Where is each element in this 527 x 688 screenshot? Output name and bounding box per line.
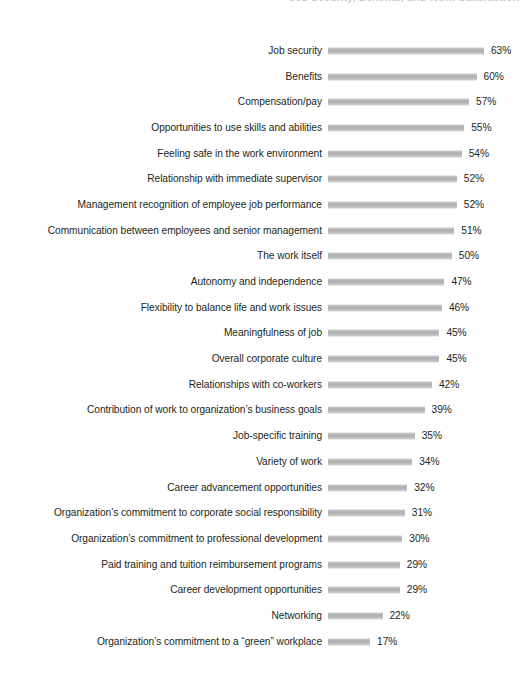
bar-track: 35% bbox=[328, 423, 494, 449]
bar-value-label: 30% bbox=[409, 533, 429, 545]
bar-track: 17% bbox=[328, 629, 494, 655]
bar-track: 32% bbox=[328, 475, 494, 501]
bar-category-label: Career advancement opportunities bbox=[0, 482, 328, 494]
bar-fill bbox=[328, 124, 464, 131]
bar-category-label: Relationships with co-workers bbox=[0, 379, 328, 391]
bar-category-label: Autonomy and independence bbox=[0, 276, 328, 288]
bar-track: 60% bbox=[328, 64, 494, 90]
bar-value-label: 52% bbox=[464, 173, 484, 185]
bar-value-label: 29% bbox=[407, 584, 427, 596]
bar-row: Relationship with immediate supervisor52… bbox=[0, 166, 527, 192]
bar-category-label: Variety of work bbox=[0, 456, 328, 468]
bar-fill bbox=[328, 330, 439, 337]
bar-category-label: Career development opportunities bbox=[0, 584, 328, 596]
bar-category-label: Feeling safe in the work environment bbox=[0, 148, 328, 160]
bar-track: 45% bbox=[328, 321, 494, 347]
bar-row: Organization’s commitment to corporate s… bbox=[0, 500, 527, 526]
bar-track: 30% bbox=[328, 526, 494, 552]
bar-track: 51% bbox=[328, 218, 494, 244]
bar-value-label: 45% bbox=[446, 327, 466, 339]
bar-fill bbox=[328, 99, 469, 106]
bar-fill bbox=[328, 612, 383, 619]
bar-value-label: 31% bbox=[412, 507, 432, 519]
bar-value-label: 45% bbox=[446, 353, 466, 365]
bar-fill bbox=[328, 176, 457, 183]
bar-category-label: Job security bbox=[0, 45, 328, 57]
bar-row: Career advancement opportunities32% bbox=[0, 475, 527, 501]
bar-track: 47% bbox=[328, 269, 494, 295]
bar-track: 46% bbox=[328, 295, 494, 321]
bar-value-label: 63% bbox=[491, 45, 511, 57]
bar-row: Networking22% bbox=[0, 603, 527, 629]
bar-track: 55% bbox=[328, 115, 494, 141]
bar-value-label: 52% bbox=[464, 199, 484, 211]
bar-fill bbox=[328, 561, 400, 568]
bar-fill bbox=[328, 484, 407, 491]
bar-value-label: 39% bbox=[432, 404, 452, 416]
bar-row: Benefits60% bbox=[0, 64, 527, 90]
bar-track: 45% bbox=[328, 346, 494, 372]
bar-track: 39% bbox=[328, 398, 494, 424]
bar-fill bbox=[328, 73, 477, 80]
bar-category-label: Organization’s commitment to professiona… bbox=[0, 533, 328, 545]
bar-fill bbox=[328, 47, 484, 54]
bar-value-label: 32% bbox=[414, 482, 434, 494]
bar-fill bbox=[328, 510, 405, 517]
bar-fill bbox=[328, 253, 452, 260]
bar-category-label: Management recognition of employee job p… bbox=[0, 199, 328, 211]
bar-category-label: The work itself bbox=[0, 250, 328, 262]
bar-track: 29% bbox=[328, 552, 494, 578]
bar-row: Paid training and tuition reimbursement … bbox=[0, 552, 527, 578]
bar-row: Management recognition of employee job p… bbox=[0, 192, 527, 218]
bar-category-label: Flexibility to balance life and work iss… bbox=[0, 302, 328, 314]
bar-track: 22% bbox=[328, 603, 494, 629]
bar-category-label: Paid training and tuition reimbursement … bbox=[0, 559, 328, 571]
bar-category-label: Communication between employees and seni… bbox=[0, 225, 328, 237]
bar-track: 29% bbox=[328, 577, 494, 603]
bar-category-label: Meaningfulness of job bbox=[0, 327, 328, 339]
bar-track: 52% bbox=[328, 192, 494, 218]
bar-row: Overall corporate culture45% bbox=[0, 346, 527, 372]
bar-category-label: Relationship with immediate supervisor bbox=[0, 173, 328, 185]
bar-fill bbox=[328, 227, 454, 234]
bar-row: Variety of work34% bbox=[0, 449, 527, 475]
bar-category-label: Benefits bbox=[0, 71, 328, 83]
horizontal-bar-chart: Job Security, Benefits, and Work Satisfa… bbox=[0, 0, 527, 688]
bar-value-label: 50% bbox=[459, 250, 479, 262]
bar-fill bbox=[328, 638, 370, 645]
bar-value-label: 35% bbox=[422, 430, 442, 442]
bar-row: Job security63% bbox=[0, 38, 527, 64]
bar-category-label: Job-specific training bbox=[0, 430, 328, 442]
bar-row: Contribution of work to organization’s b… bbox=[0, 398, 527, 424]
chart-plot-area: Job security63%Benefits60%Compensation/p… bbox=[0, 38, 527, 655]
bar-track: 52% bbox=[328, 166, 494, 192]
bar-row: Relationships with co-workers42% bbox=[0, 372, 527, 398]
bar-row: The work itself50% bbox=[0, 244, 527, 270]
bar-row: Flexibility to balance life and work iss… bbox=[0, 295, 527, 321]
bar-row: Communication between employees and seni… bbox=[0, 218, 527, 244]
bar-fill bbox=[328, 458, 412, 465]
bar-value-label: 34% bbox=[419, 456, 439, 468]
bar-category-label: Compensation/pay bbox=[0, 96, 328, 108]
bar-value-label: 60% bbox=[484, 71, 504, 83]
bar-fill bbox=[328, 201, 457, 208]
bar-fill bbox=[328, 587, 400, 594]
bar-row: Career development opportunities29% bbox=[0, 577, 527, 603]
bar-track: 34% bbox=[328, 449, 494, 475]
bar-category-label: Organization’s commitment to corporate s… bbox=[0, 507, 328, 519]
bar-value-label: 47% bbox=[451, 276, 471, 288]
bar-fill bbox=[328, 433, 415, 440]
bar-fill bbox=[328, 535, 402, 542]
bar-fill bbox=[328, 356, 439, 363]
bar-category-label: Overall corporate culture bbox=[0, 353, 328, 365]
bar-row: Meaningfulness of job45% bbox=[0, 321, 527, 347]
bar-track: 31% bbox=[328, 500, 494, 526]
chart-title: Job Security, Benefits, and Work Satisfa… bbox=[0, 0, 527, 3]
bar-value-label: 54% bbox=[469, 148, 489, 160]
bar-row: Organization’s commitment to a “green” w… bbox=[0, 629, 527, 655]
bar-row: Feeling safe in the work environment54% bbox=[0, 141, 527, 167]
bar-track: 57% bbox=[328, 89, 494, 115]
bar-row: Job-specific training35% bbox=[0, 423, 527, 449]
bar-value-label: 42% bbox=[439, 379, 459, 391]
bar-fill bbox=[328, 407, 425, 414]
